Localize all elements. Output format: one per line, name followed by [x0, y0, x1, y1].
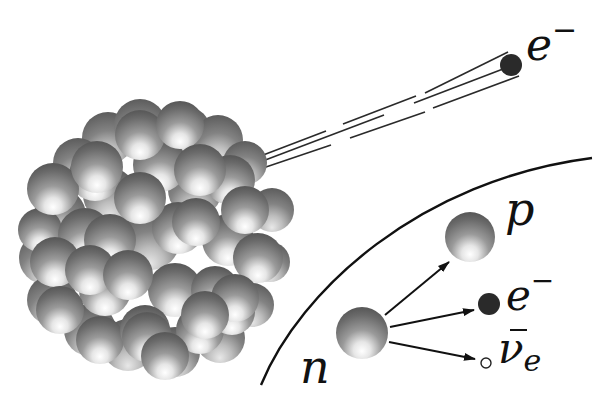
proton [445, 212, 495, 262]
arrow-to-proton [385, 262, 449, 315]
arrow-to-antineutrino [389, 342, 475, 359]
proton-label: p [505, 182, 534, 236]
neutron [336, 307, 388, 359]
diagram-canvas: e− n p e− νe [0, 0, 610, 402]
nucleus [18, 99, 294, 380]
emitted-electron-label: e− [526, 12, 577, 70]
antineutrino-label: νe [498, 324, 541, 378]
decay-arrows [385, 262, 475, 359]
emitted-electron [500, 54, 522, 76]
neutron-label: n [300, 340, 330, 394]
antineutrino [481, 358, 491, 368]
decay-electron [478, 293, 500, 315]
arrow-to-electron [390, 310, 474, 327]
beta-decay-diagram: e− n p e− νe [0, 0, 610, 402]
electron-trail [258, 52, 519, 168]
decay-electron-label: e− [506, 264, 554, 320]
